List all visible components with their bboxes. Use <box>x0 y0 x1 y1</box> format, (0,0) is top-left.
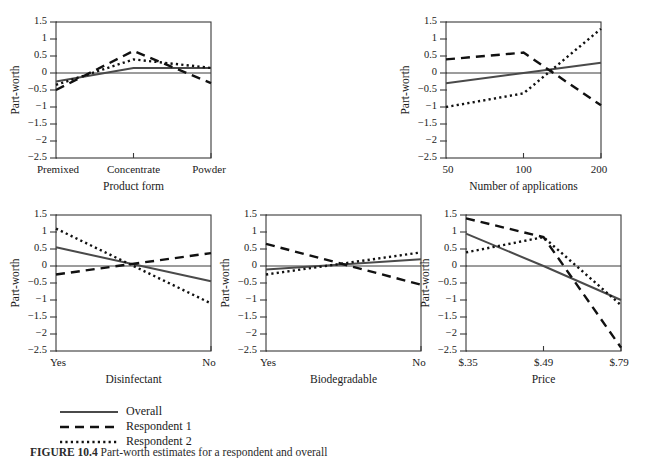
y-tick-label: −2.5 <box>418 151 437 162</box>
y-tick-label: −1.5 <box>238 310 257 321</box>
y-tick-label: −1.5 <box>438 310 457 321</box>
y-tick-label: 1.5 <box>34 15 47 26</box>
x-tick-label: 50 <box>443 163 455 175</box>
y-tick-label: 1 <box>452 225 457 236</box>
y-tick-label: 0.5 <box>424 49 437 60</box>
y-axis-title: Part-worth <box>9 65 21 114</box>
x-tick-label: $.35 <box>458 356 478 368</box>
x-tick-label: $.79 <box>609 356 629 368</box>
chart-panel-product-form: 1.510.50−0.5−1−1.5−2−2.5PremixedConcentr… <box>8 10 221 206</box>
y-tick-label: −1 <box>246 293 257 304</box>
y-tick-label: 1 <box>42 225 47 236</box>
y-tick-label: −0.5 <box>438 276 457 287</box>
y-tick-label: 0 <box>42 259 47 270</box>
y-tick-label: −0.5 <box>418 83 437 94</box>
x-axis-title: Biodegradable <box>310 373 377 386</box>
chart-panel-number-of-applications: 1.510.50−0.5−1−1.5−2−2.550100200Number o… <box>398 10 611 206</box>
plot-frame <box>466 215 621 351</box>
plot-frame <box>56 215 211 351</box>
y-tick-label: −0.5 <box>238 276 257 287</box>
y-tick-label: −2 <box>36 134 47 145</box>
y-tick-label: −1 <box>36 100 47 111</box>
x-tick-label: Yes <box>50 356 66 368</box>
y-tick-label: −2.5 <box>238 344 257 355</box>
x-axis-title: Disinfectant <box>105 373 162 385</box>
y-tick-label: 1 <box>42 32 47 43</box>
y-axis-title: Part-worth <box>9 258 21 307</box>
chart-panel-price: 1.510.50−0.5−1−1.5−2−2.5$.35$.49$.79Pric… <box>418 203 631 399</box>
y-tick-label: 0 <box>432 66 437 77</box>
x-tick-label: Premixed <box>37 163 80 175</box>
y-tick-label: 0.5 <box>444 242 457 253</box>
y-tick-label: −0.5 <box>28 276 47 287</box>
y-axis-title: Part-worth <box>399 65 411 114</box>
x-tick-label: Powder <box>192 163 226 175</box>
legend-swatch-overall <box>58 406 120 418</box>
y-tick-label: −2 <box>426 134 437 145</box>
y-tick-label: −1 <box>426 100 437 111</box>
y-tick-label: −2 <box>246 327 257 338</box>
x-tick-label: $.49 <box>534 356 554 368</box>
y-axis-ticks: 1.510.50−0.5−1−1.5−2−2.5 <box>438 208 467 355</box>
legend-item-r1: Respondent 1 <box>58 419 278 434</box>
x-axis-title: Number of applications <box>469 180 578 193</box>
y-tick-label: −2.5 <box>28 344 47 355</box>
y-tick-label: 0 <box>42 66 47 77</box>
legend-label: Overall <box>120 404 162 419</box>
legend-swatch-r1 <box>58 421 120 433</box>
x-tick-label: Concentrate <box>107 163 160 175</box>
y-tick-label: 0 <box>452 259 457 270</box>
y-axis-ticks: 1.510.50−0.5−1−1.5−2−2.5 <box>28 15 57 162</box>
plot-frame <box>56 22 211 158</box>
x-tick-label: No <box>202 356 216 368</box>
y-tick-label: 0.5 <box>34 242 47 253</box>
y-axis-ticks: 1.510.50−0.5−1−1.5−2−2.5 <box>418 15 447 162</box>
y-tick-label: 1 <box>252 225 257 236</box>
y-tick-label: 0.5 <box>244 242 257 253</box>
x-axis-title: Product form <box>103 180 164 192</box>
y-tick-label: 0.5 <box>34 49 47 60</box>
y-tick-label: −0.5 <box>28 83 47 94</box>
y-tick-label: −2.5 <box>28 151 47 162</box>
y-tick-label: −2 <box>446 327 457 338</box>
y-axis-title: Part-worth <box>219 258 231 307</box>
y-tick-label: −1.5 <box>28 310 47 321</box>
y-tick-label: 1.5 <box>244 208 257 219</box>
figure-caption: FIGURE 10.4 Part-worth estimates for a r… <box>30 446 630 458</box>
figure-caption-label: FIGURE 10.4 <box>30 446 98 458</box>
legend: OverallRespondent 1Respondent 2 <box>58 404 278 449</box>
y-tick-label: −2.5 <box>438 344 457 355</box>
y-tick-label: −1 <box>446 293 457 304</box>
x-tick-label: 100 <box>515 163 532 175</box>
y-tick-label: 1 <box>432 32 437 43</box>
figure-root: 1.510.50−0.5−1−1.5−2−2.5PremixedConcentr… <box>0 0 646 458</box>
y-tick-label: 1.5 <box>34 208 47 219</box>
y-tick-label: −2 <box>36 327 47 338</box>
x-tick-label: 200 <box>591 163 608 175</box>
figure-caption-text: Part-worth estimates for a respondent an… <box>101 446 328 458</box>
y-axis-ticks: 1.510.50−0.5−1−1.5−2−2.5 <box>28 208 57 355</box>
legend-item-overall: Overall <box>58 404 278 419</box>
y-tick-label: 0 <box>252 259 257 270</box>
y-axis-ticks: 1.510.50−0.5−1−1.5−2−2.5 <box>238 208 267 355</box>
y-tick-label: −1.5 <box>418 117 437 128</box>
plot-frame <box>266 215 421 351</box>
y-axis-title: Part-worth <box>419 258 431 307</box>
y-tick-label: −1.5 <box>28 117 47 128</box>
y-tick-label: −1 <box>36 293 47 304</box>
x-tick-label: Yes <box>260 356 276 368</box>
chart-panel-disinfectant: 1.510.50−0.5−1−1.5−2−2.5YesNoDisinfectan… <box>8 203 221 399</box>
x-axis-title: Price <box>532 373 556 385</box>
legend-label: Respondent 1 <box>120 419 192 434</box>
y-tick-label: 1.5 <box>444 208 457 219</box>
y-tick-label: 1.5 <box>424 15 437 26</box>
chart-panel-biodegradable: 1.510.50−0.5−1−1.5−2−2.5YesNoBiodegradab… <box>218 203 431 399</box>
